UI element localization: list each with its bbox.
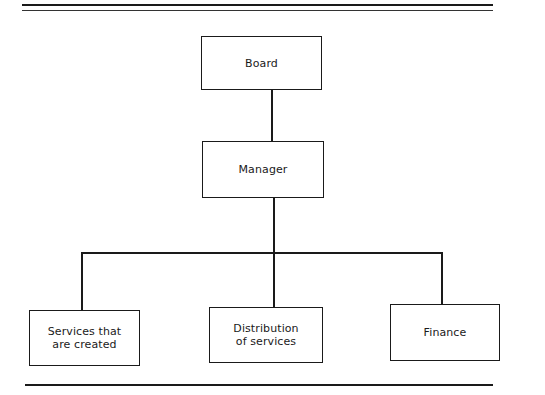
connector-to-services — [81, 252, 83, 311]
top-rule-thick — [22, 4, 493, 6]
node-manager: Manager — [202, 141, 324, 198]
connector-horizontal-bar — [81, 252, 443, 254]
connector-board-manager — [271, 89, 273, 142]
node-distribution-label-line2: of services — [233, 335, 298, 348]
connector-to-distribution — [273, 252, 275, 308]
node-finance: Finance — [390, 304, 500, 361]
connector-to-finance — [441, 252, 443, 305]
node-board-label: Board — [245, 57, 278, 70]
bottom-rule — [25, 384, 493, 386]
node-distribution: Distribution of services — [209, 307, 323, 363]
connector-manager-down — [273, 197, 275, 254]
node-finance-label: Finance — [424, 326, 467, 339]
node-distribution-label-line1: Distribution — [233, 322, 298, 335]
node-services-label-line1: Services that — [48, 325, 122, 338]
node-board: Board — [201, 36, 322, 90]
node-services-label-line2: are created — [48, 338, 122, 351]
node-manager-label: Manager — [239, 163, 288, 176]
top-rule-thin — [22, 10, 493, 11]
node-services: Services that are created — [29, 310, 140, 366]
